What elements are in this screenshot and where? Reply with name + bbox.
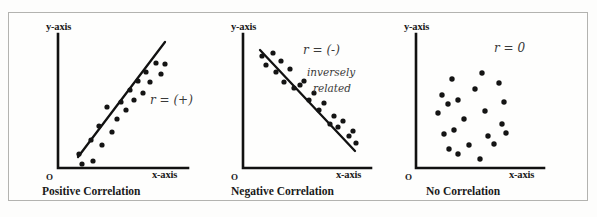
origin-label: O: [405, 172, 412, 182]
correlation-annotation: r = (+): [150, 93, 193, 107]
correlation-annotation-sub-line2: related: [313, 82, 351, 94]
negative-correlation-chart: y-axis O x-axis: [203, 12, 393, 201]
panel-no-correlation: y-axis O x-axis: [396, 12, 586, 201]
correlation-annotation: r = 0: [494, 41, 525, 55]
no-correlation-chart: y-axis O x-axis: [396, 12, 586, 201]
positive-correlation-chart: y-axis O x-axis: [10, 12, 200, 201]
x-axis-label: x-axis: [152, 169, 177, 180]
x-axis-label: x-axis: [509, 169, 534, 180]
scatter-points: [76, 60, 167, 166]
panel-positive-correlation: y-axis O x-axis: [10, 12, 200, 201]
origin-label: O: [231, 172, 238, 182]
scatter-points: [435, 70, 508, 161]
panel-caption: Positive Correlation: [42, 185, 141, 197]
y-axis-label: y-axis: [231, 21, 256, 32]
y-axis-label: y-axis: [46, 21, 71, 32]
panel-caption: No Correlation: [426, 185, 501, 197]
correlation-figure: y-axis O x-axis: [0, 0, 597, 217]
correlation-annotation-sub-line1: inversely: [307, 66, 356, 78]
x-axis-label: x-axis: [336, 169, 361, 180]
panel-container: y-axis O x-axis: [0, 0, 597, 217]
origin-label: O: [46, 172, 53, 182]
correlation-annotation: r = (-): [303, 43, 340, 57]
panel-caption: Negative Correlation: [231, 185, 335, 198]
y-axis-label: y-axis: [404, 21, 429, 32]
panel-negative-correlation: y-axis O x-axis: [203, 12, 393, 201]
